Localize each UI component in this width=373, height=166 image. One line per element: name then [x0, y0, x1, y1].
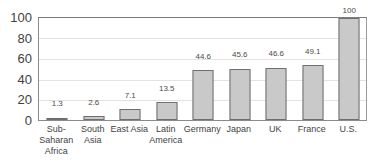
bars-layer: 1.3 2.6 7.1 13.5 44.6 45.6 [39, 18, 366, 120]
x-category-label: Sub- Saharan Africa [38, 124, 75, 157]
bar [266, 68, 287, 120]
bar [302, 65, 323, 120]
y-tick-label: 0 [25, 114, 32, 127]
bar [229, 69, 250, 120]
bar-group: 2.6 [76, 18, 113, 120]
x-category-label: Latin America [148, 124, 185, 146]
x-category-label: UK [257, 124, 294, 135]
x-category-label: France [294, 124, 331, 135]
x-category-label: Germany [182, 124, 223, 135]
bar [193, 70, 214, 120]
bar [83, 116, 104, 120]
bar-group: 13.5 [149, 18, 186, 120]
bar-value-label: 44.6 [195, 52, 211, 61]
bar-value-label: 49.1 [305, 47, 321, 56]
bar-group: 45.6 [222, 18, 259, 120]
bar-value-label: 46.6 [268, 49, 284, 58]
bar-value-label: 45.6 [232, 50, 248, 59]
plot-area: 1.3 2.6 7.1 13.5 44.6 45.6 [38, 17, 367, 121]
bar-value-label: 1.3 [52, 99, 63, 108]
y-tick-label: 80 [18, 32, 32, 45]
y-tick-label: 100 [10, 11, 32, 24]
bar [47, 118, 68, 120]
bar-group: 46.6 [258, 18, 295, 120]
bar-group: 100 [331, 18, 368, 120]
x-category-label: South Asia [75, 124, 112, 146]
bar-value-label: 13.5 [159, 84, 175, 93]
bar-value-label: 100 [343, 6, 356, 15]
bar-group: 1.3 [39, 18, 76, 120]
bar-group: 7.1 [112, 18, 149, 120]
bar [339, 18, 360, 120]
bar [156, 102, 177, 120]
x-category-label: U.S. [330, 124, 367, 135]
bar-chart: 100 80 60 40 20 0 1.3 2.6 7.1 13.5 [0, 0, 373, 166]
bar-group: 44.6 [185, 18, 222, 120]
x-category-label: East Asia [108, 124, 151, 135]
x-axis: Sub- Saharan Africa South Asia East Asia… [38, 124, 367, 166]
bar [120, 109, 141, 120]
y-tick-label: 20 [18, 93, 32, 106]
y-tick-label: 60 [18, 52, 32, 65]
y-tick-label: 40 [18, 73, 32, 86]
bar-group: 49.1 [295, 18, 332, 120]
y-axis: 100 80 60 40 20 0 [0, 0, 36, 128]
bar-value-label: 7.1 [125, 91, 136, 100]
bar-value-label: 2.6 [88, 98, 99, 107]
x-category-label: Japan [221, 124, 258, 135]
